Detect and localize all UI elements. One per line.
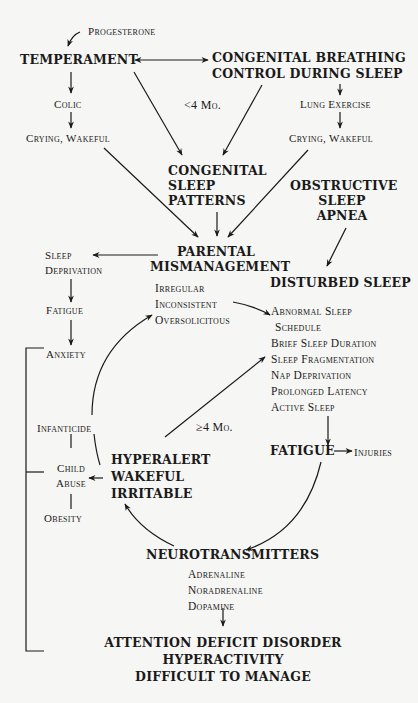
node-colic: Colic [54,99,82,110]
node-parental-mismanagement: PARENTAL MISMANAGEMENT [150,244,282,274]
disturbed-sleep-list: Abnormal Sleep Schedule Brief Sleep Dura… [271,303,377,415]
node-fatigue-left: Fatigue [46,305,83,316]
label-ge-4-months: ≥4 Mo. [196,421,233,433]
node-progesterone: Progesterone [88,26,156,37]
node-crying-wakeful-right: Crying, Wakeful [289,133,373,144]
node-child-abuse: Child Abuse [44,461,98,491]
node-infanticide: Infanticide [37,423,91,434]
node-neurotransmitters: NEUROTRANSMITTERS [146,549,319,562]
node-outcome-adhd: ATTENTION DEFICIT DISORDER HYPERACTIVITY… [100,634,346,685]
node-fatigue-right: FATIGUE [270,445,335,458]
label-lt-4-months: <4 Mo. [184,99,221,111]
node-obesity: Obesity [44,513,82,524]
node-congenital-sleep-patterns: CONGENITAL SLEEP PATTERNS [168,163,267,208]
neurotransmitter-list: Adrenaline Noradrenaline Dopamine [188,566,263,614]
node-congenital-breathing: CONGENITAL BREATHING CONTROL DURING SLEE… [212,50,394,82]
node-lung-exercise: Lung Exercise [300,99,371,110]
node-obstructive-sleep-apnea: OBSTRUCTIVE SLEEP APNEA [290,178,394,223]
node-anxiety: Anxiety [46,349,86,360]
node-hyperalert-wakeful-irritable: HYPERALERT WAKEFUL IRRITABLE [111,451,211,502]
node-sleep-deprivation: Sleep Deprivation [45,248,102,278]
node-injuries: Injuries [354,447,392,458]
node-crying-wakeful-left: Crying, Wakeful [26,133,110,144]
node-disturbed-sleep: DISTURBED SLEEP [270,277,411,290]
node-temperament: TEMPERAMENT [20,54,138,67]
parental-behaviors-list: Irregular Inconsistent Oversolicitous [155,280,230,328]
